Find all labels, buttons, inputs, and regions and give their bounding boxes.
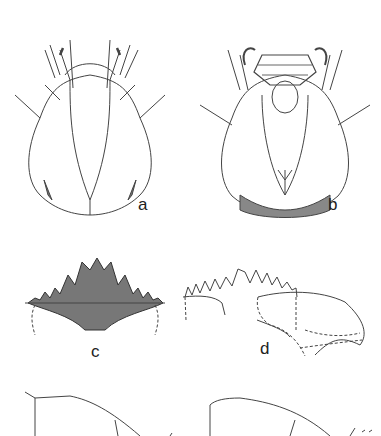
panel-c-drawing: [25, 258, 165, 335]
panel-a-drawing: [15, 40, 165, 215]
panel-b-drawing: [200, 48, 370, 217]
panel-d-drawing: [183, 269, 364, 356]
panel-label-a: a: [138, 196, 147, 213]
panel-label-c: c: [91, 343, 100, 360]
figure-canvas: [0, 0, 381, 436]
bottom-partial-drawings: [25, 392, 372, 436]
panel-label-d: d: [260, 340, 269, 357]
panel-label-b: b: [328, 196, 337, 213]
